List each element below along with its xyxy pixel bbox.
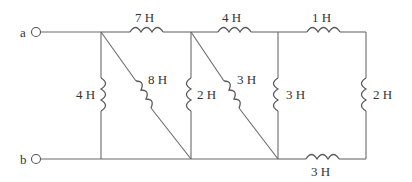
label-7h: 7 H: [135, 10, 154, 25]
label-3h-diagonal: 3 H: [237, 72, 256, 87]
terminal-a-label: a: [20, 25, 26, 40]
inductor-circuit-diagram: a b: [0, 0, 412, 182]
label-2h-right: 2 H: [373, 87, 392, 102]
bottom-rail: [41, 155, 367, 160]
label-8h: 8 H: [148, 72, 167, 87]
label-2h-left: 2 H: [197, 87, 216, 102]
inductor-2h-vertical-right: [362, 32, 367, 159]
top-rail: [41, 28, 367, 33]
label-4h-top: 4 H: [222, 10, 241, 25]
inductor-4h-vertical: [101, 32, 106, 159]
inductor-1h-coil: [307, 28, 340, 33]
inductor-3h-vertical: [274, 32, 279, 159]
inductor-3h-bottom-coil: [306, 155, 339, 160]
label-3h-vertical: 3 H: [286, 87, 305, 102]
terminal-b-label: b: [20, 152, 27, 167]
terminal-a-node: [32, 28, 41, 37]
terminal-b-node: [32, 155, 41, 164]
label-1h: 1 H: [312, 10, 331, 25]
inductor-7h-coil: [130, 28, 163, 33]
terminal-b: b: [20, 152, 41, 167]
label-4h-vertical: 4 H: [76, 87, 95, 102]
inductor-4h-top-coil: [218, 28, 251, 33]
terminal-a: a: [20, 25, 41, 40]
inductor-8h-diagonal: [101, 32, 191, 159]
label-3h-bottom: 3 H: [311, 164, 330, 179]
inductor-2h-vertical-left: [187, 32, 192, 159]
